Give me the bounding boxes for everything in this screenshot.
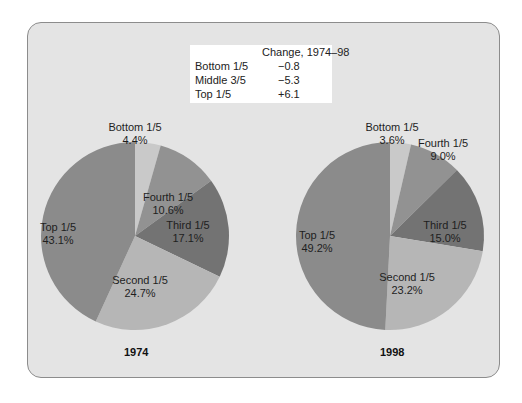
slice-value-second: 23.2%: [391, 284, 422, 296]
slice-value-fourth: 10.6%: [152, 204, 183, 216]
pie-charts: Bottom 1/54.4%Fourth 1/510.6%Third 1/517…: [0, 0, 522, 403]
slice-value-third: 15.0%: [429, 232, 460, 244]
slice-second: [385, 236, 482, 330]
slice-value-fourth: 9.0%: [430, 150, 455, 162]
slice-value-top: 43.1%: [42, 234, 73, 246]
pie-1974: Bottom 1/54.4%Fourth 1/510.6%Third 1/517…: [40, 121, 229, 330]
slice-label-top: Top 1/5: [299, 229, 335, 241]
slice-value-third: 17.1%: [172, 232, 203, 244]
slice-label-fourth: Fourth 1/5: [143, 191, 193, 203]
slice-label-top: Top 1/5: [40, 221, 76, 233]
slice-value-top: 49.2%: [301, 242, 332, 254]
year-label-1974: 1974: [124, 346, 148, 358]
slice-label-second: Second 1/5: [112, 274, 168, 286]
pie-1998: Bottom 1/53.6%Fourth 1/59.0%Third 1/515.…: [296, 121, 484, 330]
slice-label-second: Second 1/5: [379, 271, 435, 283]
slice-value-second: 24.7%: [124, 287, 155, 299]
slice-label-fourth: Fourth 1/5: [418, 137, 468, 149]
slice-value-bottom: 3.6%: [379, 134, 404, 146]
slice-label-third: Third 1/5: [423, 219, 466, 231]
slice-value-bottom: 4.4%: [122, 134, 147, 146]
slice-label-bottom: Bottom 1/5: [108, 121, 161, 133]
slice-label-bottom: Bottom 1/5: [365, 121, 418, 133]
slice-label-third: Third 1/5: [166, 219, 209, 231]
year-label-1998: 1998: [380, 346, 404, 358]
